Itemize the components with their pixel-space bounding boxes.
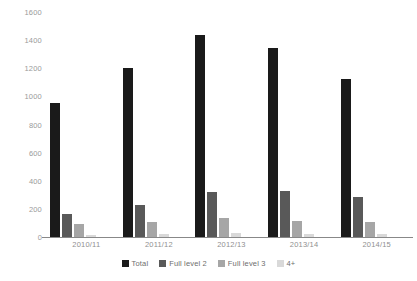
bar[interactable] [62, 214, 72, 237]
bar[interactable] [304, 234, 314, 237]
x-axis-tick: 2012/13 [195, 240, 261, 254]
y-axis-tick: 200 [29, 204, 42, 213]
y-axis-tick-labels: 02004006008001000120014001600 [0, 12, 42, 237]
bar[interactable] [353, 197, 363, 237]
bar[interactable] [341, 79, 351, 237]
y-axis-tick: 1200 [25, 64, 43, 73]
legend-item[interactable]: Full level 3 [218, 259, 266, 268]
legend-swatch-icon [218, 260, 225, 267]
x-axis-tick-labels: 2010/112011/122012/132013/142014/15 [47, 240, 410, 254]
bar[interactable] [231, 233, 241, 237]
x-axis-line [42, 237, 413, 238]
bar[interactable] [135, 205, 145, 237]
bar-group [341, 12, 407, 237]
y-axis-tick: 1400 [25, 36, 43, 45]
y-axis-tick: 400 [29, 176, 42, 185]
bar[interactable] [195, 35, 205, 237]
bar[interactable] [268, 48, 278, 237]
y-axis-tick: 600 [29, 148, 42, 157]
bar-group [123, 12, 189, 237]
bar[interactable] [365, 222, 375, 237]
x-axis-tick: 2010/11 [50, 240, 116, 254]
y-axis-tick: 1600 [25, 8, 43, 17]
footnote-text [4, 274, 204, 281]
bar-chart: 02004006008001000120014001600 2010/11201… [0, 0, 417, 281]
x-axis-tick: 2013/14 [268, 240, 334, 254]
legend-label: Full level 3 [228, 259, 266, 268]
chart-legend: TotalFull level 2Full level 34+ [0, 259, 417, 268]
legend-item[interactable]: Full level 2 [159, 259, 207, 268]
x-axis-tick: 2011/12 [123, 240, 189, 254]
y-axis-tick: 1000 [25, 92, 43, 101]
bar[interactable] [123, 68, 133, 237]
bar[interactable] [147, 222, 157, 237]
legend-swatch-icon [277, 260, 284, 267]
y-axis-tick: 800 [29, 120, 42, 129]
legend-label: Total [132, 259, 149, 268]
bar[interactable] [50, 103, 60, 237]
bar[interactable] [377, 234, 387, 237]
bar[interactable] [292, 221, 302, 237]
bar[interactable] [86, 235, 96, 237]
legend-label: 4+ [287, 259, 296, 268]
bar[interactable] [74, 224, 84, 237]
bar-group [50, 12, 116, 237]
legend-item[interactable]: 4+ [277, 259, 296, 268]
legend-swatch-icon [122, 260, 129, 267]
bar[interactable] [159, 234, 169, 237]
bar-groups [47, 12, 410, 237]
bar[interactable] [207, 192, 217, 237]
bar-group [268, 12, 334, 237]
legend-swatch-icon [159, 260, 166, 267]
x-axis-tick: 2014/15 [341, 240, 407, 254]
legend-item[interactable]: Total [122, 259, 149, 268]
bar[interactable] [219, 218, 229, 237]
bar[interactable] [280, 191, 290, 237]
legend-label: Full level 2 [169, 259, 207, 268]
bar-group [195, 12, 261, 237]
